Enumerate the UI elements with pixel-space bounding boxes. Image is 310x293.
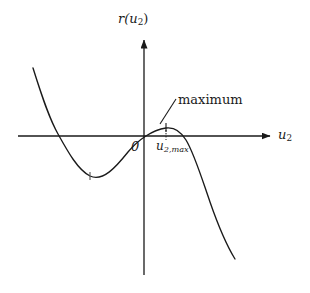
- x-axis-label: u2: [278, 128, 292, 143]
- x-axis-label-subscript: 2: [286, 133, 292, 143]
- y-axis-label-main: r(u: [118, 11, 138, 26]
- umax-label-main: u: [156, 139, 164, 153]
- y-axis-label-paren: ): [143, 11, 148, 26]
- umax-annotation-label: u2,max: [156, 140, 189, 153]
- umax-label-subscript: 2,max: [164, 144, 189, 154]
- figure-canvas: r(u2) u2 0 maximum u2,max: [0, 0, 310, 293]
- maximum-leader-line: [160, 99, 176, 124]
- maximum-annotation-label: maximum: [178, 93, 243, 106]
- plot-area: [0, 0, 310, 293]
- origin-label: 0: [131, 140, 139, 153]
- y-axis-label: r(u2): [118, 12, 148, 27]
